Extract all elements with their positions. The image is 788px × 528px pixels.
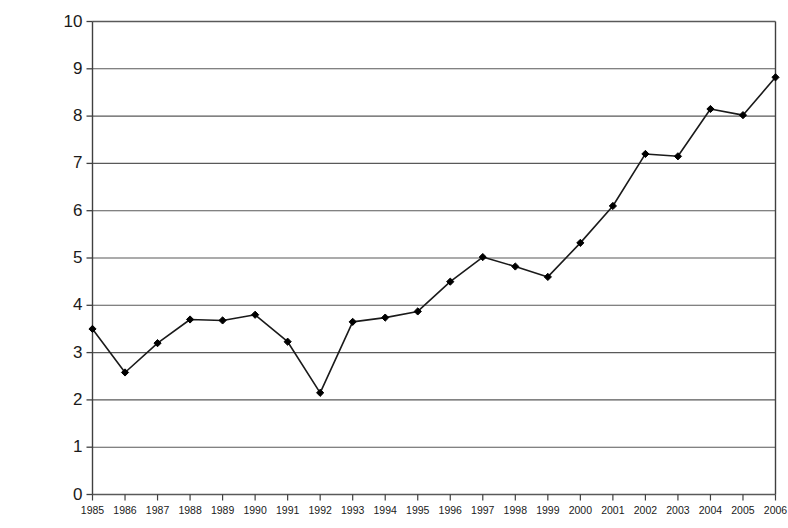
data-point-marker	[512, 263, 519, 270]
data-line-thc	[93, 77, 776, 393]
data-point-markers	[89, 74, 779, 397]
data-point-marker	[219, 317, 226, 324]
y-axis-tick-marks	[87, 22, 93, 495]
x-axis-tick-marks	[93, 495, 776, 501]
data-point-marker	[349, 318, 356, 325]
gridlines	[93, 22, 776, 495]
data-point-marker	[382, 314, 389, 321]
plot-area	[0, 0, 788, 528]
thc-percentage-line-chart: THC in % 012345678910 198519861987198819…	[0, 0, 788, 528]
